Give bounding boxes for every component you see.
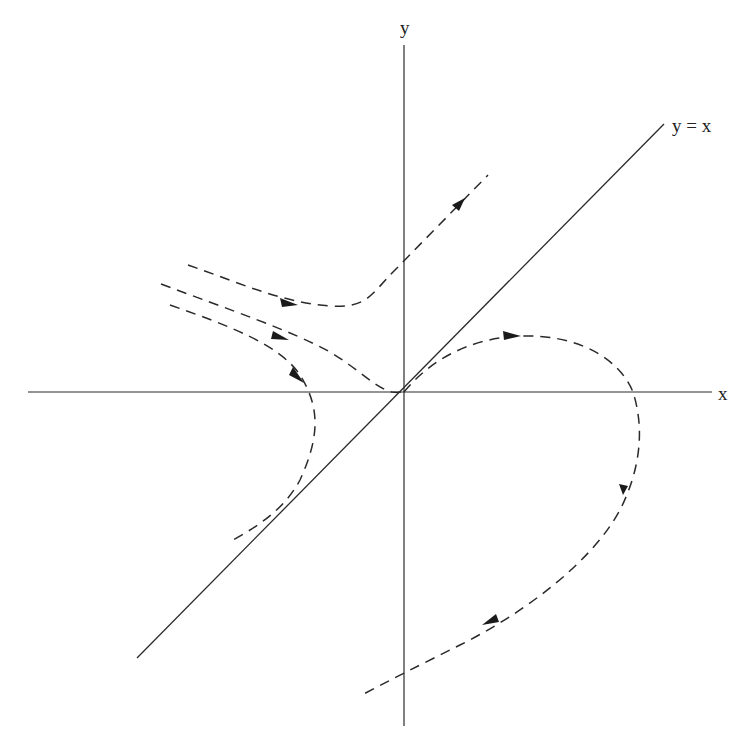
diagonal-label: y = x — [672, 115, 712, 136]
y-axis-label: y — [400, 17, 410, 38]
arrow-down-right-icon — [271, 331, 289, 340]
left-turning-trajectory — [170, 305, 315, 540]
arrow-down-icon — [619, 484, 628, 495]
x-axis-label: x — [718, 383, 728, 404]
upper-hyperbolic-trajectory — [188, 175, 488, 307]
arrow-down-left-icon — [482, 614, 499, 625]
arrow-right-icon — [503, 331, 521, 340]
diagonal-line-y-equals-x — [137, 124, 664, 658]
phase-portrait-diagram: y x y = x — [0, 0, 751, 745]
homoclinic-loop-trajectory — [360, 331, 639, 696]
